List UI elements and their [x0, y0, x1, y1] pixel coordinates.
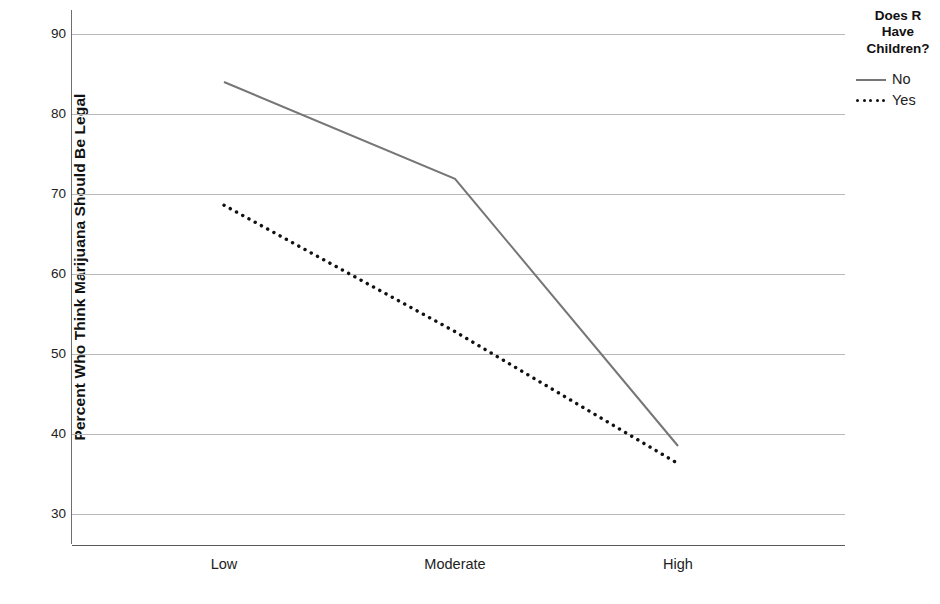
y-tick-label: 80 [32, 107, 66, 121]
legend-label: Yes [892, 93, 916, 108]
y-tick-label: 40 [32, 427, 66, 441]
y-tick-label: 30 [32, 507, 66, 521]
y-tick-label: 60 [32, 267, 66, 281]
x-tick-label: Moderate [375, 556, 535, 572]
line-chart: Percent Who Think Marijuana Should Be Le… [0, 0, 940, 604]
legend-item-no[interactable]: No [856, 69, 940, 89]
gridline [72, 514, 845, 515]
legend-items: NoYes [856, 69, 940, 110]
gridline [72, 194, 845, 195]
x-axis-line [72, 545, 845, 546]
plot-area [72, 14, 845, 538]
gridline [72, 354, 845, 355]
legend: Does R Have Children? NoYes [856, 8, 940, 111]
legend-title: Does R Have Children? [856, 8, 940, 57]
gridline [72, 274, 845, 275]
legend-swatch-dotted-icon [856, 94, 886, 106]
legend-swatch-solid-icon [856, 73, 886, 85]
gridline [72, 434, 845, 435]
y-tick-label: 90 [32, 27, 66, 41]
y-tick-label: 50 [32, 347, 66, 361]
y-tick-label: 70 [32, 187, 66, 201]
gridline [72, 34, 845, 35]
gridline [72, 114, 845, 115]
legend-item-yes[interactable]: Yes [856, 90, 940, 110]
legend-label: No [892, 72, 911, 87]
x-tick-label: Low [144, 556, 304, 572]
x-tick-label: High [598, 556, 758, 572]
